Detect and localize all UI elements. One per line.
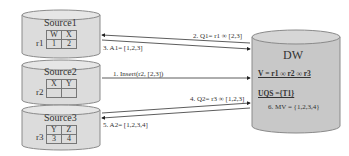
source3-relation-name: r3 — [36, 132, 44, 142]
source3-value-cell: 4 — [62, 135, 77, 144]
dw-materialized-view: 6. MV = {1,2,3,4} — [268, 103, 320, 111]
source1-value-cell: 1 — [47, 40, 62, 49]
dw-view-definition: V = r1 ∞ r2 ∞ r3 — [258, 69, 311, 78]
source1-value-cell: 2 — [62, 40, 77, 49]
source2-header-cell: X — [47, 80, 62, 89]
q2-arrow — [102, 103, 250, 113]
source3-table: Y Z 3 4 — [46, 125, 77, 144]
source2-table: X Y — [46, 79, 77, 98]
source3-title: Source3 — [44, 112, 77, 123]
source2-value-cell — [47, 89, 62, 98]
source1-relation-name: r1 — [36, 38, 44, 48]
q2-label: 4. Q2= r3 ∞ [1,2,3] — [190, 95, 244, 103]
dw-title: DW — [283, 48, 303, 63]
source1-title: Source1 — [44, 17, 77, 28]
q1-label: 2. Q1= r1 ∞ [2,3] — [193, 32, 242, 40]
a1-label: 3. A1= [1,2,3] — [103, 44, 143, 52]
source2-title: Source2 — [44, 66, 77, 77]
source3-value-cell: 3 — [47, 135, 62, 144]
source2-relation-name: r2 — [36, 87, 44, 97]
source2-header-cell: Y — [62, 80, 77, 89]
dw-uqs: UQS ={T1} — [258, 89, 294, 98]
source1-table: W X 1 2 — [46, 30, 77, 49]
a2-label: 5. A2= [1,2,3,4] — [103, 121, 148, 129]
source2-value-cell — [62, 89, 77, 98]
a2-arrow — [102, 108, 250, 118]
insert-label: 1. Insert(r2, [2,3]) — [113, 70, 163, 78]
dw-cylinder — [252, 30, 340, 133]
